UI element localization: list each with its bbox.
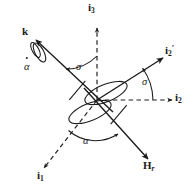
alpha-angle-arc: [69, 131, 119, 141]
axis-i3-label: i3: [88, 2, 95, 15]
diagram-canvas: [0, 0, 195, 193]
axis-i1-subscript: 1: [40, 174, 44, 183]
alpha-angle-label: α: [83, 136, 89, 147]
axis-i1-line: [44, 100, 97, 168]
rotor-bottom-face: [66, 96, 114, 129]
angular-momentum-Hr-label: Hr: [143, 160, 154, 173]
rotor-side-left: [69, 81, 85, 100]
alpha-angle-symbol: α: [83, 135, 89, 146]
axis-i2-prime-label: i2′: [165, 44, 174, 58]
alpha-dot-symbol: α: [24, 61, 30, 72]
axis-i2-label: i2: [175, 92, 182, 105]
sigma-upper-symbol: σ: [76, 61, 81, 72]
rotor-side-right: [111, 105, 127, 124]
axis-k-line: [36, 40, 113, 112]
alpha-dot-overdot: [26, 57, 28, 59]
angular-momentum-Hr-line: [84, 88, 148, 159]
axis-k-base: k: [22, 25, 28, 37]
Hr-subscript: r: [152, 164, 155, 173]
sigma-right-symbol: σ: [142, 76, 147, 87]
vector-diagram-figure: i3 i2 i2′ i1 k Hr α α σ σ: [0, 0, 195, 193]
axis-k-label: k: [22, 26, 28, 37]
sigma-angle-upper-label: σ: [76, 62, 81, 73]
axis-i3-subscript: 3: [91, 6, 95, 15]
alpha-dot-rate-label: α: [24, 62, 30, 73]
axis-i2-subscript: 2: [178, 96, 182, 105]
axis-i2-prime-mark: ′: [172, 43, 175, 53]
axis-i1-label: i1: [37, 170, 44, 183]
sigma-angle-right-label: σ: [142, 77, 147, 88]
Hr-base: H: [143, 159, 152, 171]
alpha-dot-spin-indicator: [29, 41, 49, 64]
sigma-angle-upper-arc: [66, 56, 97, 69]
rotor-top-face: [82, 77, 130, 110]
